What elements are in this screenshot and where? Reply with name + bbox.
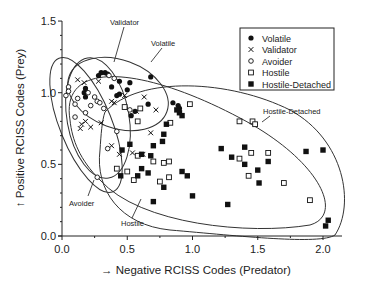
legend-item-label: Avoider	[262, 57, 292, 67]
data-point	[139, 152, 144, 157]
hostile-ellipse	[69, 77, 325, 229]
data-point	[105, 146, 110, 151]
legend-marker-open-square-icon	[249, 70, 254, 75]
legend-marker-open-circle-icon	[249, 59, 254, 64]
legend: VolatileValidatorAvoiderHostileHostile-D…	[240, 28, 334, 90]
data-point	[225, 202, 230, 207]
data-point	[242, 162, 247, 167]
y-tick-label: 0.5	[41, 158, 56, 170]
data-point	[255, 167, 260, 172]
data-point	[237, 156, 242, 161]
data-point	[118, 173, 123, 178]
data-point	[135, 173, 140, 178]
data-point	[326, 218, 331, 223]
data-point	[82, 80, 87, 85]
data-point	[112, 76, 117, 81]
x-tick-label: 0.5	[120, 243, 135, 255]
data-point	[130, 150, 135, 155]
data-point	[78, 126, 83, 131]
data-point	[161, 161, 166, 166]
x-axis-title: → Negative RCISS Codes (Predator)	[101, 264, 291, 276]
data-point	[92, 95, 97, 100]
data-point	[148, 153, 153, 158]
data-point	[75, 77, 80, 82]
data-point	[109, 84, 114, 89]
data-point	[167, 159, 172, 164]
data-point	[145, 170, 150, 175]
y-tick-label: 0.0	[41, 230, 56, 242]
data-point	[265, 159, 270, 164]
data-point	[160, 139, 165, 144]
data-point	[125, 87, 130, 92]
data-point	[86, 90, 91, 95]
x-tick-label: 0.0	[54, 243, 69, 255]
legend-item-label: Hostile	[262, 68, 290, 78]
data-point	[139, 166, 144, 171]
data-point	[66, 89, 71, 94]
data-point	[190, 193, 195, 198]
x-tick-label: 2.0	[315, 243, 330, 255]
data-point	[135, 119, 140, 124]
data-point	[73, 102, 78, 107]
data-point	[129, 113, 134, 118]
data-point	[187, 102, 192, 107]
data-point	[64, 93, 69, 98]
data-point	[308, 198, 313, 203]
data-point	[151, 159, 156, 164]
data-point	[115, 129, 120, 134]
data-point	[98, 100, 103, 105]
data-point	[127, 142, 132, 147]
scatter-chart: Validator Volatile Hostile-Detached Avoi…	[0, 0, 366, 291]
y-tick-label: 1.5	[41, 15, 56, 27]
data-point	[266, 150, 271, 155]
data-point	[128, 108, 133, 113]
data-point	[107, 73, 112, 78]
data-point	[122, 105, 127, 110]
data-point	[229, 154, 234, 159]
data-point	[161, 185, 166, 190]
data-point	[157, 179, 162, 184]
data-point	[323, 223, 328, 228]
data-point	[146, 102, 151, 107]
data-point	[242, 144, 247, 149]
data-point	[138, 106, 143, 111]
data-point	[148, 130, 153, 135]
label-avoider: Avoider	[69, 199, 95, 208]
x-tick-label: 1.5	[250, 243, 265, 255]
label-hostile-detached: Hostile-Detached	[263, 107, 321, 116]
data-point	[114, 166, 119, 171]
data-point	[237, 119, 242, 124]
data-point	[219, 146, 224, 151]
data-point	[83, 110, 88, 115]
legend-marker-filled-circle-icon	[248, 35, 253, 40]
data-points	[64, 70, 331, 229]
data-point	[167, 175, 172, 180]
legend-item-label: Hostile-Detached	[262, 80, 331, 90]
data-point	[303, 149, 308, 154]
series-hostile-detached	[118, 107, 331, 228]
y-tick-label: 1.0	[41, 87, 56, 99]
data-point	[151, 199, 156, 204]
data-point	[179, 169, 184, 174]
data-point	[117, 92, 122, 97]
data-point	[119, 147, 124, 152]
data-point	[79, 122, 84, 127]
data-point	[117, 79, 122, 84]
data-point	[185, 173, 190, 178]
data-point	[148, 74, 153, 79]
data-point	[246, 173, 251, 178]
data-point	[125, 169, 130, 174]
label-hostile: Hostile	[121, 219, 144, 228]
label-volatile: Volatile	[151, 39, 175, 48]
data-point	[281, 181, 286, 186]
data-point	[170, 100, 175, 105]
data-point	[142, 95, 147, 100]
y-axis-title: ↑ Positive RCISS Codes (Prey)	[14, 49, 26, 208]
data-point	[88, 125, 93, 130]
data-point	[83, 119, 88, 124]
data-point	[88, 103, 93, 108]
data-point	[164, 122, 169, 127]
legend-item-label: Volatile	[262, 34, 291, 44]
data-point	[101, 106, 106, 111]
data-point	[161, 132, 166, 137]
